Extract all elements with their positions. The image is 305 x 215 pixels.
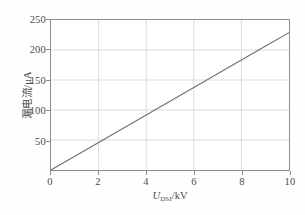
x-tick-mark (50, 171, 51, 175)
chart-figure: 漏电流/μA 250 200 150 100 50 0 2 4 6 8 10 U… (0, 0, 305, 215)
x-axis-label-symbol: U (153, 190, 161, 201)
x-tick-mark (98, 171, 99, 175)
x-tick-label: 10 (285, 176, 296, 187)
x-tick-mark (146, 171, 147, 175)
x-tick-label: 0 (47, 176, 52, 187)
y-tick-label: 50 (35, 135, 46, 146)
y-tick-label: 250 (30, 14, 46, 25)
x-axis-label: UDSI/kV (153, 190, 188, 203)
x-tick-mark (194, 171, 195, 175)
x-tick-mark (290, 171, 291, 175)
series-layer (51, 20, 289, 170)
plot-area (50, 19, 290, 171)
x-tick-label: 4 (143, 176, 148, 187)
x-tick-label: 8 (239, 176, 244, 187)
x-axis-label-subscript: DSI (160, 195, 172, 203)
x-axis-label-unit: /kV (172, 190, 188, 201)
x-tick-label: 6 (191, 176, 196, 187)
x-tick-mark (242, 171, 243, 175)
y-tick-label: 150 (30, 74, 46, 85)
y-tick-label: 100 (30, 105, 46, 116)
y-tick-label: 200 (30, 44, 46, 55)
x-tick-label: 2 (95, 176, 100, 187)
